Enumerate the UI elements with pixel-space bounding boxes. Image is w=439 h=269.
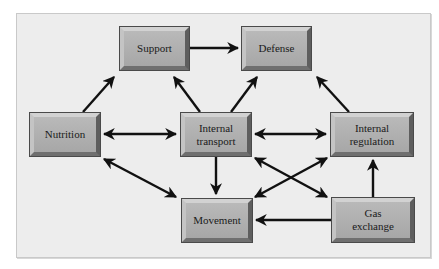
node-gas-exchange: Gas exchange — [332, 198, 414, 242]
node-nutrition: Nutrition — [30, 113, 100, 156]
node-internal-transport: Internal transport — [181, 113, 251, 156]
node-internal-transport-label: Internal transport — [196, 122, 235, 148]
node-nutrition-label: Nutrition — [45, 128, 85, 141]
node-gas-exchange-label: Gas exchange — [352, 207, 394, 233]
arrow-regulation-defense — [317, 77, 349, 112]
arrow-transport-defense — [231, 77, 257, 112]
arrow-nutrition-movement — [104, 159, 176, 197]
node-internal-regulation-label: Internal regulation — [350, 122, 395, 148]
node-defense: Defense — [242, 27, 311, 70]
node-movement-label: Movement — [193, 214, 241, 227]
arrow-transport-support — [174, 77, 200, 112]
node-support: Support — [120, 27, 189, 70]
node-movement: Movement — [182, 199, 252, 242]
node-internal-regulation: Internal regulation — [331, 113, 413, 156]
node-support-label: Support — [137, 42, 172, 55]
node-defense-label: Defense — [258, 42, 294, 55]
arrow-nutrition-support — [83, 77, 114, 112]
